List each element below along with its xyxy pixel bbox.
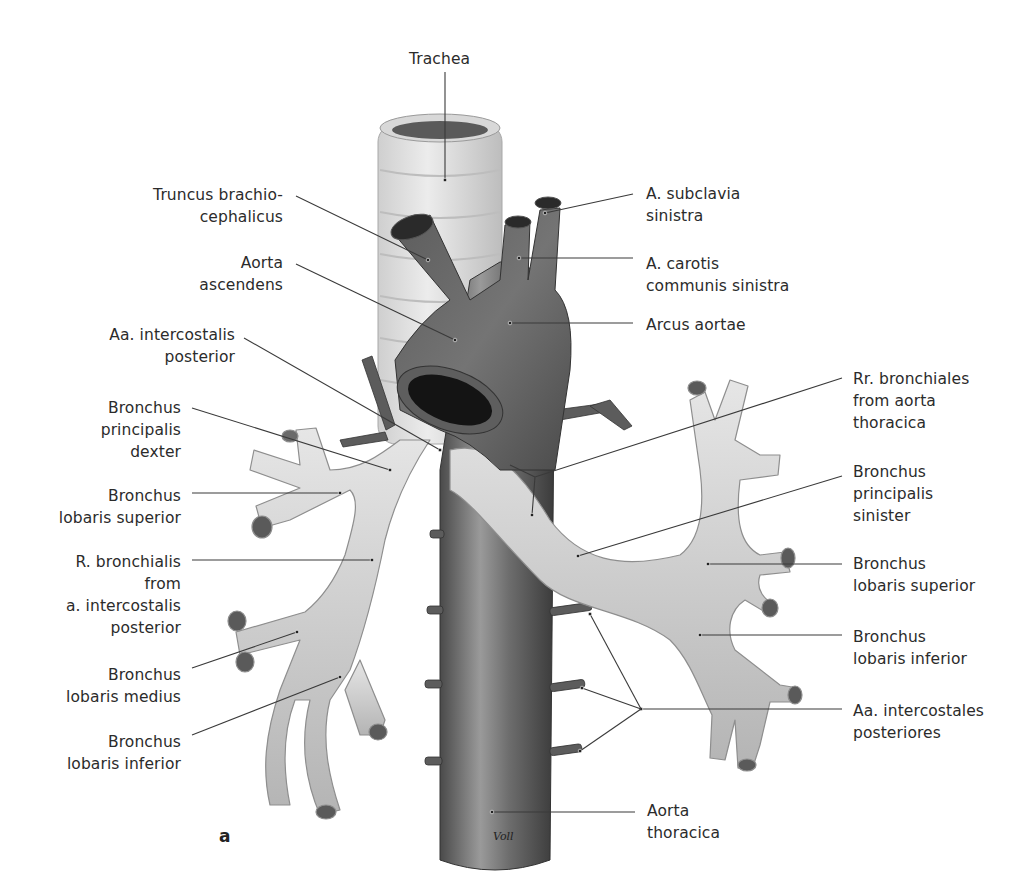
label-line: thoracica [853,412,969,434]
label-line: from aorta [853,390,969,412]
leader-dot [576,554,580,558]
leader-dot [295,630,299,634]
leader-dot [490,810,494,814]
label-line: a. intercostalis [56,595,181,617]
leader-dot [438,448,442,452]
label-bronchus-lobaris-superior-left: Bronchus lobaris superior [853,553,975,597]
label-line: communis sinistra [646,275,789,297]
label-line: posterior [96,346,235,368]
leader-line [580,709,641,751]
label-line: Aa. intercostales [853,700,984,722]
label-line: Bronchus [56,731,181,753]
label-line: lobaris inferior [853,648,967,670]
label-aa-intercostales-posteriores: Aa. intercostales posteriores [853,700,984,744]
label-line: sinistra [646,205,740,227]
label-bronchus-lobaris-inferior-right: Bronchus lobaris inferior [56,731,181,775]
leader-dot [698,633,702,637]
label-arcus-aortae: Arcus aortae [646,314,746,336]
label-a-carotis-communis-sinistra: A. carotis communis sinistra [646,253,789,297]
label-line: posteriores [853,722,984,744]
leader-dot [443,178,447,182]
label-line: A. carotis [646,253,789,275]
leader-dot [453,338,457,342]
label-bronchus-principalis-dexter: Bronchus principalis dexter [90,397,181,463]
label-line: Arcus aortae [646,314,746,336]
leader-dot [517,256,521,260]
label-line: Bronchus [48,485,181,507]
label-line: Aorta [647,800,720,822]
leader-dot [543,211,547,215]
label-line: principalis [90,419,181,441]
artist-signature: Voll [493,830,514,843]
label-line: posterior [56,617,181,639]
label-line: thoracica [647,822,720,844]
label-line: lobaris superior [48,507,181,529]
label-aorta-ascendens: Aorta ascendens [190,252,283,296]
label-line: Bronchus [853,553,975,575]
label-bronchus-lobaris-medius: Bronchus lobaris medius [56,664,181,708]
leader-dot [580,686,584,690]
label-line: ascendens [190,274,283,296]
leader-dot [530,513,534,517]
label-aorta-thoracica: Aorta thoracica [647,800,720,844]
leader-dot [338,491,342,495]
label-line: from [56,573,181,595]
anatomy-figure: Trachea Truncus brachio- cephalicus Aort… [0,0,1025,885]
label-line: Aorta [190,252,283,274]
leader-dot [578,749,582,753]
label-line: A. subclavia [646,183,740,205]
label-a-subclavia-sinistra: A. subclavia sinistra [646,183,740,227]
label-line: lobaris inferior [56,753,181,775]
label-line: Aa. intercostalis [96,324,235,346]
label-line: lobaris superior [853,575,975,597]
leader-dot [388,468,392,472]
label-aa-intercostalis-posterior: Aa. intercostalis posterior [96,324,235,368]
label-line: Truncus brachio- [130,184,283,206]
label-line: Bronchus [56,664,181,686]
panel-letter: a [219,826,230,846]
label-line: Trachea [409,48,470,70]
label-line: principalis [853,483,933,505]
label-bronchus-lobaris-inferior-left: Bronchus lobaris inferior [853,626,967,670]
leader-line [582,688,641,709]
label-r-bronchialis: R. bronchialis from a. intercostalis pos… [56,551,181,639]
label-line: dexter [90,441,181,463]
leader-dot [706,562,710,566]
leader-dot [426,258,430,262]
leader-dot [508,321,512,325]
leader-dot [370,558,374,562]
label-line: R. bronchialis [56,551,181,573]
label-bronchus-lobaris-superior-right: Bronchus lobaris superior [48,485,181,529]
label-line: Rr. bronchiales [853,368,969,390]
leader-dot [338,675,342,679]
right-bronchial-tree [228,428,430,819]
label-line: sinister [853,505,933,527]
leader-dot [588,612,592,616]
label-rr-bronchiales: Rr. bronchiales from aorta thoracica [853,368,969,434]
leader-line [590,614,641,709]
label-line: Bronchus [853,626,967,648]
label-truncus-brachiocephalicus: Truncus brachio- cephalicus [130,184,283,228]
label-line: Bronchus [853,461,933,483]
label-bronchus-principalis-sinister: Bronchus principalis sinister [853,461,933,527]
label-line: cephalicus [130,206,283,228]
label-line: Bronchus [90,397,181,419]
label-trachea: Trachea [409,48,470,70]
label-line: lobaris medius [56,686,181,708]
